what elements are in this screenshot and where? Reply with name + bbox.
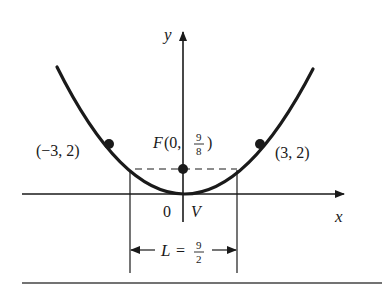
focus-close-paren: ) (207, 134, 212, 152)
point-3-2 (255, 139, 265, 149)
latus-den: 2 (196, 253, 202, 265)
parabola-curve (57, 67, 313, 194)
point-label-right: (3, 2) (275, 144, 310, 162)
x-axis-label: x (334, 207, 343, 226)
focus-den: 8 (196, 145, 202, 157)
focus-point (178, 164, 188, 174)
parabola-diagram: y x (−3, 2) (3, 2) F (0, 9 8 ) 0 V L = 9… (0, 0, 382, 288)
vertex-label: V (191, 203, 203, 220)
point-label-left: (−3, 2) (36, 142, 80, 160)
origin-label: 0 (163, 203, 171, 220)
latus-num: 9 (196, 239, 202, 251)
focus-num: 9 (196, 131, 202, 143)
point-neg3-2 (104, 139, 114, 149)
latus-label-eq: = (176, 242, 185, 259)
focus-label-prefix: F (152, 134, 163, 151)
y-axis-label: y (162, 25, 172, 44)
focus-label-coords: (0, (164, 134, 181, 152)
latus-label-L: L (160, 241, 170, 260)
